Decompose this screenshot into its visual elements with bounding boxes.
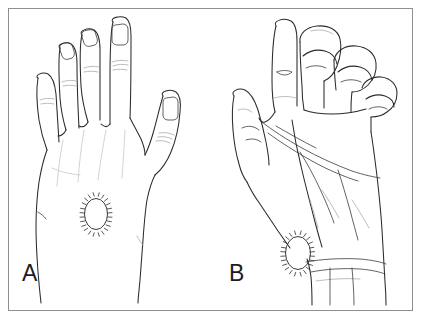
hand-b-palm-creases (262, 120, 386, 305)
figure-root: .ln { fill:none; stroke:#2b2b2f; stroke-… (0, 0, 423, 321)
hand-b-index-finger (272, 19, 297, 112)
hand-a-index-finger (110, 17, 131, 124)
hand-a-dorsum-outline (36, 118, 155, 303)
panel-b-hand-palmar (232, 19, 397, 305)
hand-a-ring-finger (59, 43, 79, 130)
hand-illustration-svg: .ln { fill:none; stroke:#2b2b2f; stroke-… (0, 0, 423, 321)
hand-a-dorsal-tendon-lines (52, 130, 125, 186)
panel-label-b: B (229, 262, 244, 285)
hand-b-lesion-marking-oval (281, 231, 315, 276)
panel-a-hand-dorsal (36, 17, 180, 303)
panel-label-a: A (22, 262, 37, 285)
hand-a-lesion-marking-oval (80, 193, 112, 237)
hand-b-thumb (232, 89, 269, 182)
hand-a-little-finger (37, 73, 59, 150)
hand-b-palm-outline (247, 109, 386, 305)
hand-a-middle-finger (80, 29, 100, 122)
hand-a-thumb (145, 90, 180, 175)
